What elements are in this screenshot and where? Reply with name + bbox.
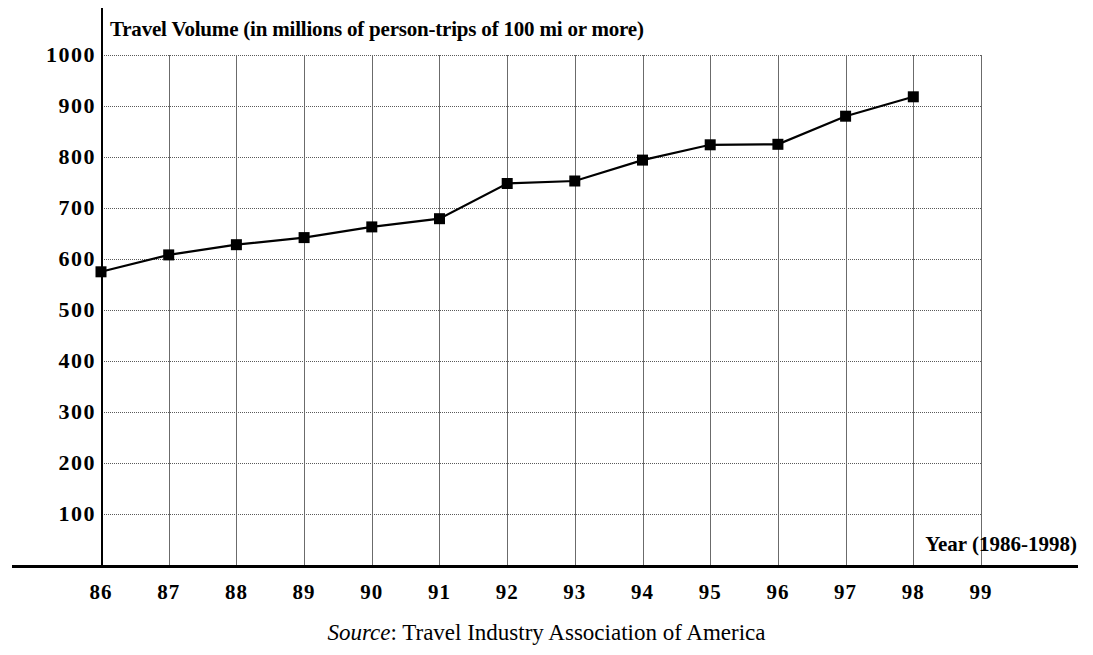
source-caption: Source: Travel Industry Association of A… (0, 620, 1093, 646)
gridline-vertical (169, 55, 170, 565)
x-axis-tick-label: 88 (206, 580, 266, 605)
gridline-horizontal (101, 514, 981, 515)
gridline-horizontal (101, 412, 981, 413)
x-axis-tick-label: 90 (342, 580, 402, 605)
gridline-vertical (981, 55, 982, 565)
gridline-vertical (643, 55, 644, 565)
gridline-horizontal (101, 208, 981, 209)
gridline-vertical (439, 55, 440, 565)
gridline-horizontal (101, 463, 981, 464)
y-axis-tick-label: 200 (0, 450, 96, 476)
x-axis-tick-label: 94 (613, 580, 673, 605)
gridline-vertical (372, 55, 373, 565)
travel-volume-chart: Travel Volume (in millions of person-tri… (0, 0, 1093, 655)
x-axis-tick-label: 96 (748, 580, 808, 605)
y-axis-tick-label: 700 (0, 195, 96, 221)
gridline-horizontal (101, 361, 981, 362)
gridline-horizontal (101, 55, 981, 56)
x-axis-tick-label: 87 (139, 580, 199, 605)
x-axis-tick-label: 98 (883, 580, 943, 605)
y-axis-tick-label: 300 (0, 399, 96, 425)
chart-title: Travel Volume (in millions of person-tri… (110, 17, 644, 42)
plot-area (101, 55, 981, 565)
gridline-vertical (778, 55, 779, 565)
gridline-vertical (710, 55, 711, 565)
y-axis-tick-label: 900 (0, 93, 96, 119)
gridline-horizontal (101, 310, 981, 311)
x-axis-tick-label: 92 (477, 580, 537, 605)
y-axis-tick-label: 1000 (0, 42, 96, 68)
x-axis-tick-label: 97 (816, 580, 876, 605)
gridline-vertical (846, 55, 847, 565)
gridline-vertical (507, 55, 508, 565)
x-axis-tick-label: 99 (951, 580, 1011, 605)
gridline-vertical (913, 55, 914, 565)
gridline-horizontal (101, 157, 981, 158)
x-axis-title: Year (1986-1998) (925, 532, 1077, 557)
gridline-vertical (236, 55, 237, 565)
x-axis-tick-label: 95 (680, 580, 740, 605)
y-axis-tick-label: 800 (0, 144, 96, 170)
x-axis-tick-label: 89 (274, 580, 334, 605)
y-axis-tick-label: 500 (0, 297, 96, 323)
y-axis-line (101, 8, 103, 565)
source-label: Source (327, 620, 390, 645)
source-separator: : (391, 620, 403, 645)
x-axis-tick-label: 91 (409, 580, 469, 605)
x-axis-tick-label: 86 (71, 580, 131, 605)
source-value: Travel Industry Association of America (402, 620, 765, 645)
x-axis-line (12, 565, 1078, 568)
y-axis-tick-label: 100 (0, 501, 96, 527)
gridline-vertical (575, 55, 576, 565)
gridline-vertical (304, 55, 305, 565)
gridline-horizontal (101, 106, 981, 107)
gridline-horizontal (101, 259, 981, 260)
x-axis-tick-label: 93 (545, 580, 605, 605)
y-axis-tick-label: 400 (0, 348, 96, 374)
y-axis-tick-label: 600 (0, 246, 96, 272)
